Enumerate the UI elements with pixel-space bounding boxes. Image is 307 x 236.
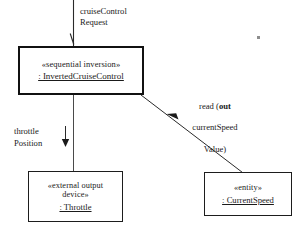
message-label-read-current-speed: read (out currentSpeed Value) (175, 90, 255, 154)
cruise-control-request-connector (70, 0, 74, 46)
diagram-canvas: «sequential inversion» : InvertedCruiseC… (0, 0, 307, 236)
message-label-cruise-control-request: cruiseControl Request (80, 6, 166, 27)
instance-label: : Throttle (59, 202, 91, 212)
instance-label: : CurrentSpeed (222, 195, 274, 205)
stereotype-label: «external output device» (48, 181, 103, 201)
read-label-line1-prefix: read ( (199, 101, 219, 111)
component-inverted-cruise-control[interactable]: «sequential inversion» : InvertedCruiseC… (18, 46, 144, 95)
instance-label: : InvertedCruiseControl (38, 71, 124, 82)
stereotype-label: «entity» (234, 183, 262, 193)
scan-artifact-speck (257, 36, 260, 39)
stereotype-label: «sequential inversion» (42, 59, 121, 69)
read-label-keyword-out: out (219, 101, 231, 111)
component-current-speed[interactable]: «entity» : CurrentSpeed (204, 172, 292, 216)
component-throttle[interactable]: «external output device» : Throttle (28, 171, 123, 222)
read-label-line3: Value) (204, 144, 226, 154)
read-label-line2: currentSpeed (192, 122, 237, 132)
message-label-throttle-position: throttle Position (14, 125, 66, 150)
